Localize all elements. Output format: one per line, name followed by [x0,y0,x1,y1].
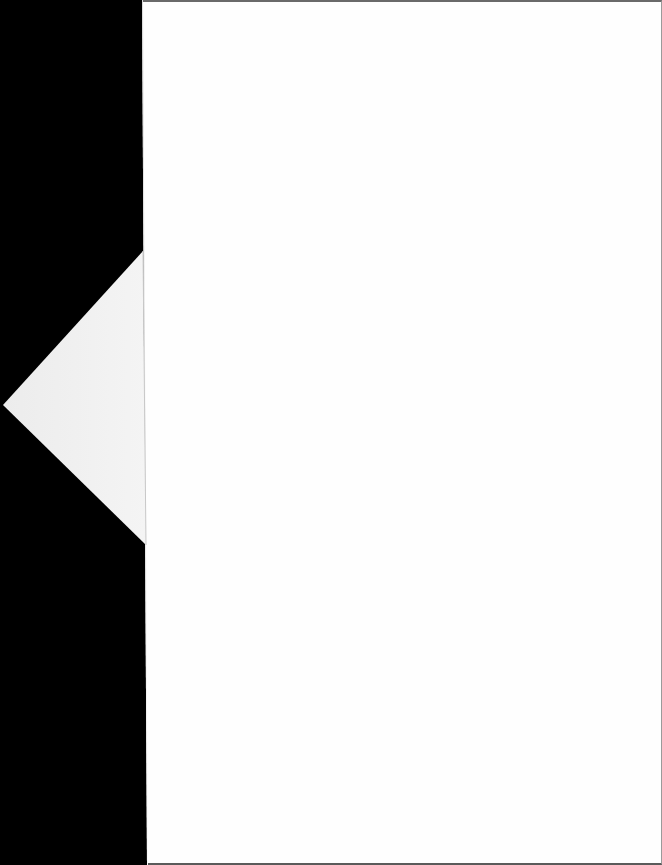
folded-corner-triangle [0,0,150,865]
page-content [302,22,662,842]
scan-scene [0,0,662,865]
blank-page [142,0,662,865]
